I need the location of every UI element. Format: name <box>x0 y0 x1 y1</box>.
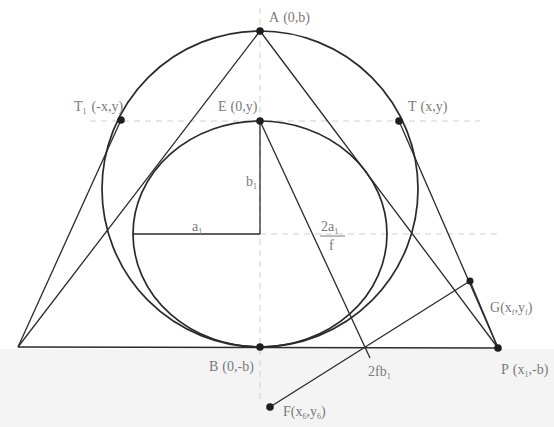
point-F <box>266 403 274 411</box>
fraction-denominator: f <box>329 238 334 253</box>
point-E <box>256 117 264 125</box>
label-A: A(0,b) <box>269 10 310 26</box>
fraction-numerator: 2a1 <box>321 219 338 236</box>
point-B <box>256 343 264 351</box>
label-B: B(0,-b) <box>209 359 254 375</box>
point-T <box>395 117 403 125</box>
label-fraction-2a1-over-f: 2a1 f <box>320 219 345 253</box>
label-2fb1: 2fb1 <box>368 364 391 381</box>
line-F-to-G <box>270 281 470 407</box>
label-T1: T1(-x,y) <box>74 99 123 116</box>
geometry-diagram: A(0,b) E(0,y) T1(-x,y) T(x,y) B(0,-b) P(… <box>0 0 554 427</box>
point-A <box>256 27 264 35</box>
point-G <box>467 278 474 285</box>
label-E: E(0,y) <box>218 99 258 115</box>
line-A-to-P <box>260 31 498 348</box>
label-a1: a1 <box>192 219 202 236</box>
label-G: G(xf,yf) <box>490 300 533 317</box>
point-P <box>494 344 502 352</box>
label-P: P(x1,-b) <box>501 362 549 379</box>
label-F: F(x6,y6) <box>283 404 326 421</box>
label-T: T(x,y) <box>408 99 448 115</box>
line-A-to-left-corner <box>18 31 260 347</box>
label-b1: b1 <box>246 174 257 191</box>
point-T1 <box>117 116 125 124</box>
